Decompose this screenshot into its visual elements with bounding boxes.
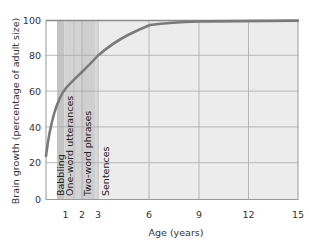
y-axis-label: Brain growth (percentage of adult size): [10, 18, 21, 204]
band-label-one-word: One-word utterances: [64, 96, 75, 196]
x-tick-9: 9: [196, 209, 202, 220]
brain-growth-chart: Babbling One-word utterances Two-word ph…: [0, 0, 309, 248]
band-label-two-word: Two-word phrases: [82, 111, 93, 197]
x-tick-15: 15: [292, 209, 304, 220]
x-axis-label: Age (years): [149, 227, 204, 238]
x-tick-6: 6: [146, 209, 152, 220]
y-tick-100: 100: [23, 15, 41, 26]
x-tick-12: 12: [242, 209, 254, 220]
y-tick-40: 40: [29, 122, 41, 133]
y-tick-0: 0: [35, 194, 41, 205]
y-tick-20: 20: [29, 157, 41, 168]
y-tick-60: 60: [29, 86, 41, 97]
band-label-sentences: Sentences: [100, 146, 111, 196]
y-tick-labels: 100 80 60 40 20 0: [23, 15, 41, 206]
x-tick-3: 3: [95, 209, 101, 220]
y-tick-80: 80: [29, 50, 41, 61]
x-tick-1: 1: [62, 209, 68, 220]
x-tick-labels: 1 2 3 6 9 12 15: [62, 209, 304, 220]
band-sentences: [97, 21, 298, 200]
x-tick-2: 2: [79, 209, 85, 220]
